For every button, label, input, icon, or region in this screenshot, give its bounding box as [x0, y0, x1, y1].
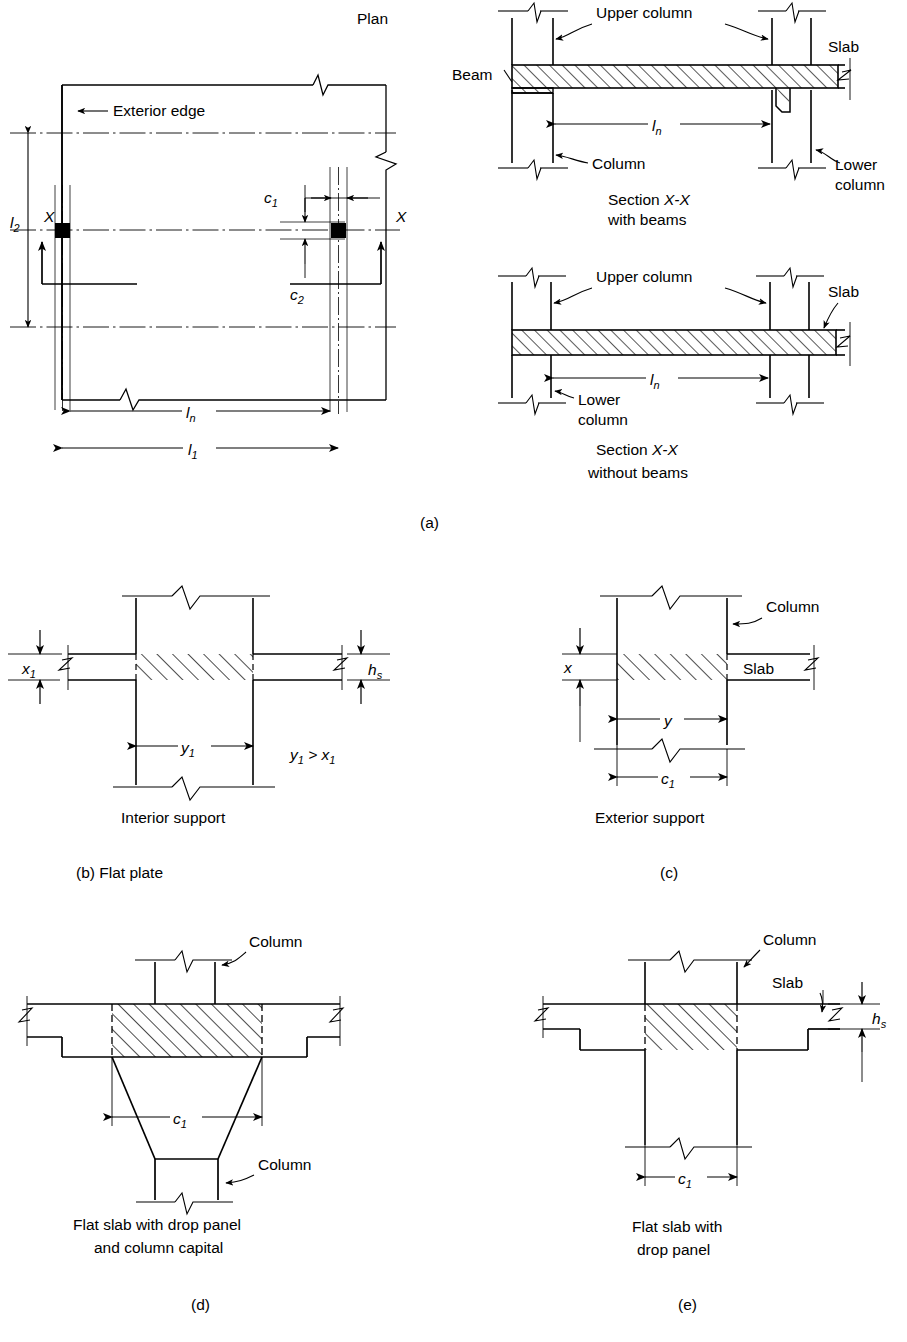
panel-label-c: (c): [660, 864, 678, 881]
swb-beam-label: Beam: [452, 66, 493, 83]
plan-column-left: [55, 223, 70, 238]
exterior-edge-label: Exterior edge: [113, 102, 205, 119]
panel-label-d: (d): [191, 1296, 210, 1313]
plan-column-right: [331, 223, 346, 238]
pe-caption-line1: Flat slab with: [632, 1218, 722, 1235]
pc-column-label: Column: [766, 598, 819, 615]
swob-slab-label: Slab: [828, 283, 859, 300]
pd-drop-hatched: [112, 1004, 262, 1057]
swob-slab-hatched: [512, 330, 836, 355]
figure-canvas: Plan Exterior edge: [0, 0, 907, 1342]
pe-slab-label: Slab: [772, 974, 803, 991]
pc-dim-y-label: y: [663, 712, 673, 729]
pd-column-label-top: Column: [249, 933, 302, 950]
swb-slab-hatched: [512, 65, 838, 88]
pb-caption: Interior support: [121, 809, 226, 826]
pd-caption-line2: and column capital: [94, 1239, 223, 1256]
swob-lower-column-label-1: Lower: [578, 391, 620, 408]
pc-slab-label: Slab: [743, 660, 774, 677]
pe-column-label: Column: [763, 931, 816, 948]
pb-joint-hatched: [136, 654, 253, 680]
figure-slab-systems: Plan Exterior edge: [0, 0, 907, 1342]
swb-column-label: Column: [592, 155, 645, 172]
swb-slab-label: Slab: [828, 38, 859, 55]
pd-column-label-bottom: Column: [258, 1156, 311, 1173]
panel-label-e: (e): [678, 1296, 697, 1313]
swob-caption-line2: without beams: [587, 464, 688, 481]
swob-lower-column-label-2: column: [578, 411, 628, 428]
swb-lower-column-label-1: Lower: [835, 156, 877, 173]
pe-drop-hatched: [645, 1004, 737, 1050]
swb-caption-line1: Section X-X: [608, 191, 691, 208]
panel-label-b: (b) Flat plate: [76, 864, 163, 881]
swob-upper-column-label: Upper column: [596, 268, 693, 285]
plan-title: Plan: [357, 10, 388, 27]
pd-caption-line1: Flat slab with drop panel: [73, 1216, 241, 1233]
panel-label-a: (a): [420, 514, 439, 531]
pc-caption: Exterior support: [595, 809, 705, 826]
swob-caption-line1: Section X-X: [596, 441, 679, 458]
pc-dim-x-label: x: [563, 659, 573, 676]
swb-lower-column-label-2: column: [835, 176, 885, 193]
pe-caption-line2: drop panel: [637, 1241, 710, 1258]
swb-upper-column-label: Upper column: [596, 4, 693, 21]
section-mark-right-label: X: [395, 208, 407, 225]
pc-joint-hatched: [617, 654, 727, 680]
swb-caption-line2: with beams: [607, 211, 687, 228]
section-mark-left-label: X: [43, 208, 55, 225]
